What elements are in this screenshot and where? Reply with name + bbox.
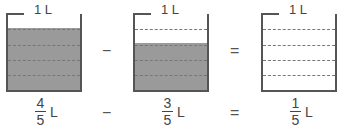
water-fill: [135, 43, 207, 90]
beaker-empty: 1 L: [261, 14, 337, 92]
beaker-3-fifths: 1 L: [133, 14, 209, 92]
mark-line: [8, 75, 80, 76]
beaker-rim: [133, 13, 151, 15]
mark-line: [263, 75, 335, 76]
mark-line: [8, 29, 80, 30]
fraction-1-5: 1 5 L: [290, 97, 301, 127]
minus-sign: −: [102, 104, 111, 122]
mark-line: [8, 45, 80, 46]
beaker-4-fifths: 1 L: [6, 14, 82, 92]
fraction-3-5: 3 5 L: [162, 97, 173, 127]
capacity-label: 1 L: [34, 2, 52, 17]
mark-line: [135, 45, 207, 46]
minus-sign: −: [102, 42, 111, 60]
water-fill: [8, 28, 80, 90]
fraction-4-5: 4 5 L: [35, 97, 46, 127]
mark-line: [135, 29, 207, 30]
beaker-rim: [6, 13, 24, 15]
mark-line: [263, 45, 335, 46]
equals-sign: =: [230, 42, 239, 60]
mark-line: [263, 60, 335, 61]
mark-line: [8, 60, 80, 61]
mark-line: [135, 75, 207, 76]
beaker-rim: [261, 13, 279, 15]
capacity-label: 1 L: [161, 2, 179, 17]
capacity-label: 1 L: [289, 2, 307, 17]
equals-sign: =: [230, 104, 239, 122]
mark-line: [263, 29, 335, 30]
mark-line: [135, 60, 207, 61]
